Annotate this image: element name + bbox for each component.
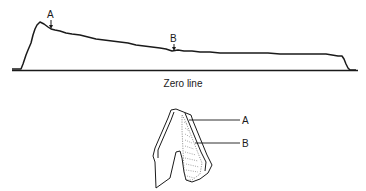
tooth-enamel-edge (185, 113, 206, 171)
tooth-section (153, 109, 240, 188)
section-label-b: B (242, 138, 249, 149)
marker-a-label: A (47, 9, 54, 20)
zero-line-label: Zero line (164, 78, 203, 89)
figure-canvas: A B Zero line A B (0, 0, 366, 191)
section-label-a: A (242, 115, 249, 126)
trace-curve (12, 22, 356, 70)
tooth-outline (153, 109, 212, 188)
marker-b-label: B (170, 33, 177, 44)
